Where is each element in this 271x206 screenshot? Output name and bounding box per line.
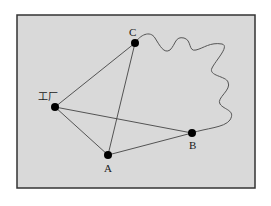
node-label-B: B [189, 139, 196, 151]
node-A [104, 151, 112, 159]
node-label-factory: 工厂 [38, 91, 58, 102]
node-C [131, 39, 139, 47]
node-factory [51, 103, 59, 111]
route-diagram: 工厂CAB [0, 0, 271, 206]
node-B [188, 129, 196, 137]
node-label-C: C [129, 26, 136, 38]
node-label-A: A [104, 162, 112, 174]
